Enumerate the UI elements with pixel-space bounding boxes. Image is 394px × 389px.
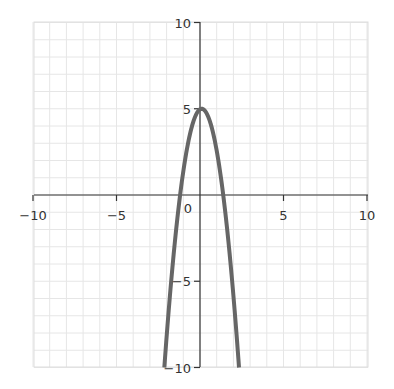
x-tick-label: −10 (19, 208, 46, 223)
y-tick-label: −10 (164, 361, 191, 376)
x-tick-label: 10 (359, 208, 376, 223)
parabola-curve (164, 109, 239, 368)
x-tick-label: 5 (279, 208, 287, 223)
x-tick-label: −5 (107, 208, 126, 223)
parabola-chart: −10−5510105−5−100 (0, 0, 394, 389)
y-tick-label: 5 (183, 102, 191, 117)
origin-label: 0 (184, 201, 192, 216)
y-tick-label: 10 (174, 16, 191, 31)
y-tick-label: −5 (172, 274, 191, 289)
